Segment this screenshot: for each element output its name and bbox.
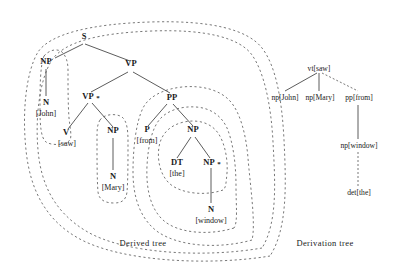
edge-s-vp bbox=[85, 44, 130, 61]
node-np-subject: NP bbox=[40, 56, 51, 66]
deriv-node-vt-saw: vt[saw] bbox=[308, 64, 331, 73]
leaf-window: [window] bbox=[195, 216, 226, 225]
node-dt: DT bbox=[171, 157, 183, 167]
node-v: V bbox=[63, 127, 70, 137]
derived-tree-labels: S NP VP N [John] VP * PP V [saw] NP N [M… bbox=[36, 31, 227, 225]
deriv-node-np-john: np[John] bbox=[272, 93, 299, 102]
deriv-node-pp-from: pp[from] bbox=[345, 93, 372, 102]
node-vp: VP bbox=[125, 58, 136, 68]
svg-text:VP: VP bbox=[82, 91, 93, 101]
node-n-john: N bbox=[43, 97, 50, 107]
node-n-mary: N bbox=[110, 171, 117, 181]
derivation-tree-labels: vt[saw] np[John] np[Mary] pp[from] np[wi… bbox=[272, 64, 378, 197]
edge-np-npfoot bbox=[195, 137, 210, 158]
node-np-in-pp: NP bbox=[187, 124, 198, 134]
np-foot-star: * bbox=[217, 160, 221, 168]
node-p: P bbox=[144, 124, 149, 134]
leaf-the: [the] bbox=[169, 169, 184, 178]
vp-foot-star: * bbox=[96, 94, 100, 102]
node-n-window: N bbox=[208, 204, 215, 214]
leaf-from: [from] bbox=[137, 136, 158, 145]
edge-vp-vpfoot bbox=[91, 72, 128, 92]
leaf-saw: [saw] bbox=[58, 139, 76, 148]
edge-vpfoot-v bbox=[68, 103, 88, 129]
node-np-foot: NP * bbox=[203, 157, 221, 168]
leaf-john: [John] bbox=[36, 109, 57, 118]
caption-derived-tree: Derived tree bbox=[119, 238, 166, 248]
leaf-mary: [Mary] bbox=[102, 183, 125, 192]
edge-np-dt bbox=[177, 137, 191, 158]
caption-derivation-tree: Derivation tree bbox=[296, 238, 353, 248]
deriv-edge-saw-from bbox=[322, 73, 358, 91]
edge-s-np bbox=[55, 44, 83, 58]
deriv-node-det-the: det[the] bbox=[347, 188, 371, 197]
node-pp: PP bbox=[167, 92, 177, 102]
svg-text:NP: NP bbox=[203, 157, 214, 167]
tag-derivation-figure: S NP VP N [John] VP * PP V [saw] NP N [M… bbox=[0, 0, 417, 278]
deriv-edge-saw-john bbox=[285, 73, 317, 91]
deriv-node-np-window: np[window] bbox=[340, 141, 377, 150]
edge-vp-pp bbox=[133, 72, 170, 93]
node-s: S bbox=[82, 31, 87, 41]
node-vp-foot: VP * bbox=[82, 91, 100, 102]
derivation-tree-edges bbox=[285, 73, 358, 186]
deriv-node-np-mary: np[Mary] bbox=[305, 93, 334, 102]
figure-canvas: S NP VP N [John] VP * PP V [saw] NP N [M… bbox=[0, 0, 417, 278]
node-np-object: NP bbox=[107, 125, 118, 135]
